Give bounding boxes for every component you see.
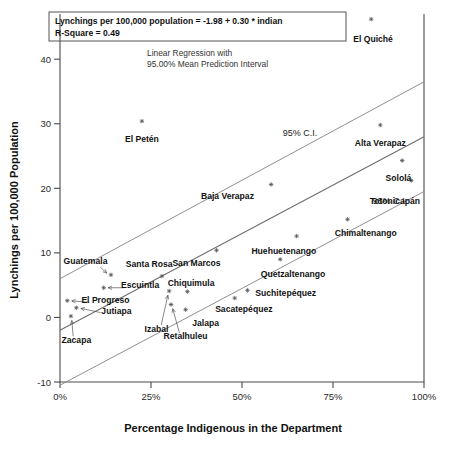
annotation-line-1: Linear Regression with [147, 48, 233, 58]
data-point [167, 289, 171, 293]
label-leader-line [173, 309, 180, 333]
data-point [69, 314, 73, 318]
annotation-line-2: 95.00% Mean Prediction Interval [147, 59, 268, 69]
y-tick-label: 10 [40, 247, 51, 258]
data-point-label: Sololá [386, 173, 412, 183]
x-tick-label: 0% [53, 391, 67, 402]
data-point [185, 289, 189, 293]
data-point [294, 234, 298, 238]
data-point-label: Quetzaltenango [261, 269, 325, 279]
ci-label-upper: 95% C.I. [283, 128, 318, 138]
data-point [400, 158, 404, 162]
data-point [160, 274, 164, 278]
data-point-label: Guatemala [64, 256, 108, 266]
data-point-label: Huehuetenango [251, 246, 316, 256]
equation-box: Lynchings per 100,000 population = -1.98… [49, 12, 346, 41]
x-tick-label: 50% [232, 391, 252, 402]
y-tick-label: 40 [40, 54, 51, 65]
y-tick-label: -10 [37, 377, 51, 388]
data-point-label: El Quiché [353, 34, 393, 44]
data-point [369, 17, 373, 21]
data-point-label: Suchitepéquez [255, 288, 316, 298]
regression-annotation: Linear Regression with 95.00% Mean Predi… [147, 48, 268, 69]
data-point-label: Alta Verapaz [355, 138, 406, 148]
data-point [245, 288, 249, 292]
y-axis-title: Lynchings per 100,000 Population [8, 121, 20, 299]
chart-canvas: 0%25%50%75%100%-10010203040 El QuichéEl … [0, 0, 449, 449]
y-tick-label: 30 [40, 118, 51, 129]
data-point [378, 123, 382, 127]
ci-label-lower: 95% C.I. [373, 196, 408, 206]
x-tick-label: 100% [412, 391, 437, 402]
regression-equation-text: Lynchings per 100,000 population = -1.98… [55, 16, 283, 26]
data-point-label: Zacapa [62, 335, 92, 345]
data-point-label: Chiquimula [168, 278, 215, 288]
data-point-label: Jalapa [192, 318, 219, 328]
data-point-label: Jutiapa [101, 306, 131, 316]
x-tick-label: 75% [323, 391, 343, 402]
data-point [74, 306, 78, 310]
data-point [233, 296, 237, 300]
data-point [101, 286, 105, 290]
data-point [278, 257, 282, 261]
data-point [214, 248, 218, 252]
y-tick-label: 0 [46, 312, 51, 323]
data-point-label: Chimaltenango [335, 228, 397, 238]
ci-upper-line [60, 82, 424, 279]
data-point-label: El Petén [125, 134, 159, 144]
x-tick-label: 25% [141, 391, 161, 402]
x-axis-title: Percentage Indigenous in the Department [124, 422, 342, 434]
data-point-labels-group: El QuichéEl PeténAlta VerapazSololáToton… [62, 34, 421, 345]
ci-lower-line [60, 192, 424, 386]
data-point-label: San Marcos [172, 258, 220, 268]
data-point-label: El Progreso [81, 295, 129, 305]
scatter-plot-figure: 0%25%50%75%100%-10010203040 El QuichéEl … [0, 0, 449, 449]
data-point [109, 273, 113, 277]
data-point [269, 182, 273, 186]
label-leader-line [161, 295, 168, 325]
data-point [183, 307, 187, 311]
data-point [65, 298, 69, 302]
data-point-label: Santa Rosa [126, 259, 173, 269]
y-tick-label: 20 [40, 183, 51, 194]
data-point-label: Izabal [145, 324, 169, 334]
data-point-label: Retalhuleu [164, 331, 208, 341]
data-point [345, 217, 349, 221]
data-point [169, 302, 173, 306]
data-point-label: Baja Verapaz [201, 191, 254, 201]
r-square-text: R-Square = 0.49 [55, 28, 120, 38]
data-point [140, 119, 144, 123]
data-point-label: Escuintla [121, 280, 159, 290]
data-point-label: Sacatepéquez [215, 304, 272, 314]
axes-group: 0%25%50%75%100%-10010203040 [37, 14, 436, 402]
